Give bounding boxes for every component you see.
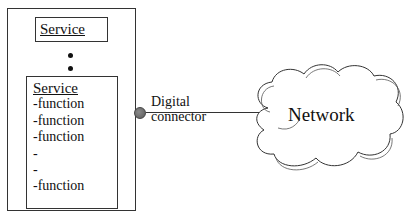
service-detail-title: Service: [33, 80, 117, 96]
network-label: Network: [288, 104, 354, 126]
service-label: Service: [40, 21, 85, 37]
function-item: -: [33, 162, 117, 178]
service-box-top: Service: [35, 17, 108, 42]
connector-label-line2: connector: [151, 109, 206, 124]
connector-label: Digital connector: [151, 94, 206, 124]
function-item: -: [33, 146, 117, 162]
ellipsis-dot: [68, 66, 73, 71]
connector-label-line1: Digital: [151, 94, 206, 109]
function-item: -function: [33, 113, 117, 129]
digital-connector-icon: [134, 107, 146, 119]
function-item: -function: [33, 129, 117, 145]
function-item: -function: [33, 178, 117, 194]
function-item: -function: [33, 96, 117, 112]
service-detail-box: Service -function -function -function - …: [26, 76, 118, 209]
ellipsis-dot: [68, 53, 73, 58]
